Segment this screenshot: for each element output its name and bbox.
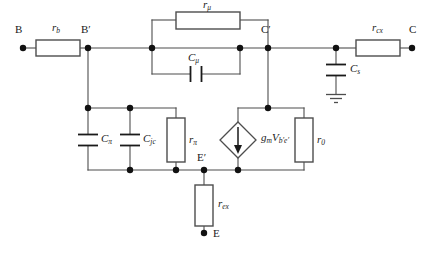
capacitor-cs-body — [326, 65, 346, 76]
cpi-subscript: π — [108, 137, 112, 146]
rcx-subscript: cx — [376, 26, 383, 35]
rmu-subscript: μ — [207, 3, 211, 12]
resistor-rpi-body — [167, 118, 185, 162]
component-label-rex: rex — [218, 198, 229, 209]
node-dot-rpi-bottom — [173, 167, 179, 173]
component-label-cs: Cs — [350, 63, 360, 74]
node-dot-source-rail — [265, 105, 271, 111]
node-dot-pi-top-left — [85, 105, 91, 111]
node-dot-rmu-left — [149, 45, 155, 51]
node-dot-cs-tap — [333, 45, 339, 51]
v-symbol: V — [272, 131, 279, 143]
ground-icon — [326, 95, 346, 103]
rex-subscript: ex — [222, 202, 229, 211]
gm-symbol: g — [261, 131, 267, 143]
rb-subscript: b — [56, 26, 60, 35]
cs-subscript: s — [357, 67, 360, 76]
resistor-r0-body — [295, 118, 313, 162]
component-label-rmu: rμ — [203, 0, 211, 10]
v-subscript: b′e′ — [279, 136, 289, 145]
component-label-r0: r0 — [317, 134, 325, 145]
resistor-rex-body — [195, 185, 213, 226]
resistor-rmu-body — [176, 12, 240, 29]
resistor-rcx-body — [356, 40, 400, 56]
node-dot-src-bottom — [235, 167, 241, 173]
node-label-eprime: E′ — [197, 152, 206, 163]
component-label-rcx: rcx — [372, 22, 383, 33]
node-label-cprime: C′ — [261, 24, 271, 35]
terminal-label-e: E — [213, 228, 220, 239]
cmu-subscript: μ — [195, 56, 199, 65]
capacitor-cmu-body — [191, 66, 202, 82]
gm-subscript: m — [267, 136, 272, 145]
node-dot-bprime — [85, 45, 91, 51]
node-dot-eprime — [201, 167, 207, 173]
component-label-cpi: Cπ — [101, 133, 112, 144]
terminal-label-c: C — [409, 24, 416, 35]
node-dot-cprime — [265, 45, 271, 51]
component-label-rpi: rπ — [189, 134, 197, 145]
rpi-subscript: π — [193, 138, 197, 147]
r0-subscript: 0 — [321, 138, 325, 147]
schematic-svg — [0, 0, 430, 257]
terminal-dot-c — [409, 45, 415, 51]
circuit-diagram: B B′ C′ C E′ E rb rμ Cμ rcx Cs Cπ Cjc rπ… — [0, 0, 430, 257]
resistor-rb-body — [36, 40, 80, 56]
component-label-cmu: Cμ — [188, 52, 199, 63]
node-dot-cmu-right — [237, 45, 243, 51]
capacitor-cpi-body — [78, 135, 98, 146]
component-label-cjc: Cjc — [143, 133, 156, 144]
terminal-label-b: B — [15, 24, 22, 35]
terminal-dot-e — [201, 230, 207, 236]
dependent-source-label: gmVb′e′ — [261, 132, 289, 143]
node-label-bprime: B′ — [81, 24, 91, 35]
node-dot-cjc-bottom — [127, 167, 133, 173]
cjc-subscript: jc — [150, 137, 155, 146]
dependent-current-source-icon — [220, 122, 256, 158]
node-dot-pi-top-cjc — [127, 105, 133, 111]
component-label-rb: rb — [52, 22, 60, 33]
capacitor-cjc-body — [120, 135, 140, 146]
terminal-dot-b — [20, 45, 26, 51]
